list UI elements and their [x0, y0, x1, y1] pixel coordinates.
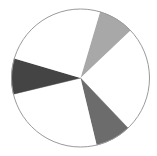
pie-slices	[11, 9, 149, 147]
pie-chart	[0, 0, 157, 156]
